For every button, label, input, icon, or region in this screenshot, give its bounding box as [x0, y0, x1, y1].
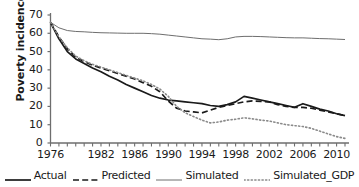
legend-label: Simulated [185, 169, 238, 182]
series-line-simulated-gdp [51, 22, 346, 138]
legend-label: Actual [34, 169, 67, 182]
y-tick-label: 50 [19, 45, 43, 58]
series-line-actual [51, 22, 346, 115]
solid-thin-icon [156, 170, 182, 180]
legend-label: Predicted [102, 169, 151, 182]
x-tick-label: 1976 [31, 148, 71, 161]
solid-thick-icon [5, 170, 31, 180]
series-line-simulated [51, 22, 346, 39]
legend-item-actual[interactable]: Actual [5, 169, 67, 182]
dotted-icon [244, 170, 270, 180]
poverty-incidence-line-chart: Poverty incidence (%) 706050403020100 19… [0, 0, 359, 187]
x-tick-label: 2010 [317, 148, 357, 161]
y-tick-label: 40 [19, 63, 43, 76]
legend-item-predicted[interactable]: Predicted [73, 169, 151, 182]
legend-item-simulated-gdp[interactable]: Simulated_GDP [244, 169, 354, 182]
y-tick-label: 70 [19, 8, 43, 21]
legend-item-simulated[interactable]: Simulated [156, 169, 238, 182]
legend-label: Simulated_GDP [273, 169, 354, 182]
y-tick-label: 20 [19, 99, 43, 112]
y-tick-label: 30 [19, 81, 43, 94]
y-tick-label: 10 [19, 118, 43, 131]
chart-legend: ActualPredictedSimulatedSimulated_GDP [0, 166, 359, 184]
tick-marks [48, 15, 346, 147]
series-paths [51, 22, 346, 138]
y-tick-label: 60 [19, 26, 43, 39]
dashed-icon [73, 170, 99, 180]
